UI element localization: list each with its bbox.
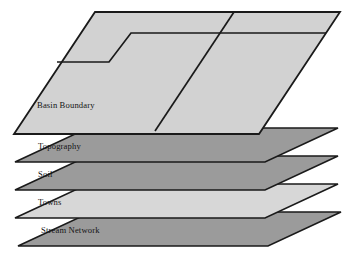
- map-layer-basin-boundary[interactable]: Basin Boundary: [14, 12, 340, 134]
- layer-label-basin-boundary: Basin Boundary: [37, 100, 95, 110]
- layer-label-stream-network: Stream Network: [41, 225, 100, 235]
- layer-label-soil: Soil: [38, 169, 53, 179]
- map-layer-stack-diagram: Stream Network Towns Soil Topography: [0, 0, 353, 259]
- layer-label-towns: Towns: [38, 197, 62, 207]
- layer-plane-basin-boundary[interactable]: [14, 12, 340, 134]
- diagram-canvas: Stream Network Towns Soil Topography: [0, 0, 353, 259]
- layer-label-topography: Topography: [38, 141, 81, 151]
